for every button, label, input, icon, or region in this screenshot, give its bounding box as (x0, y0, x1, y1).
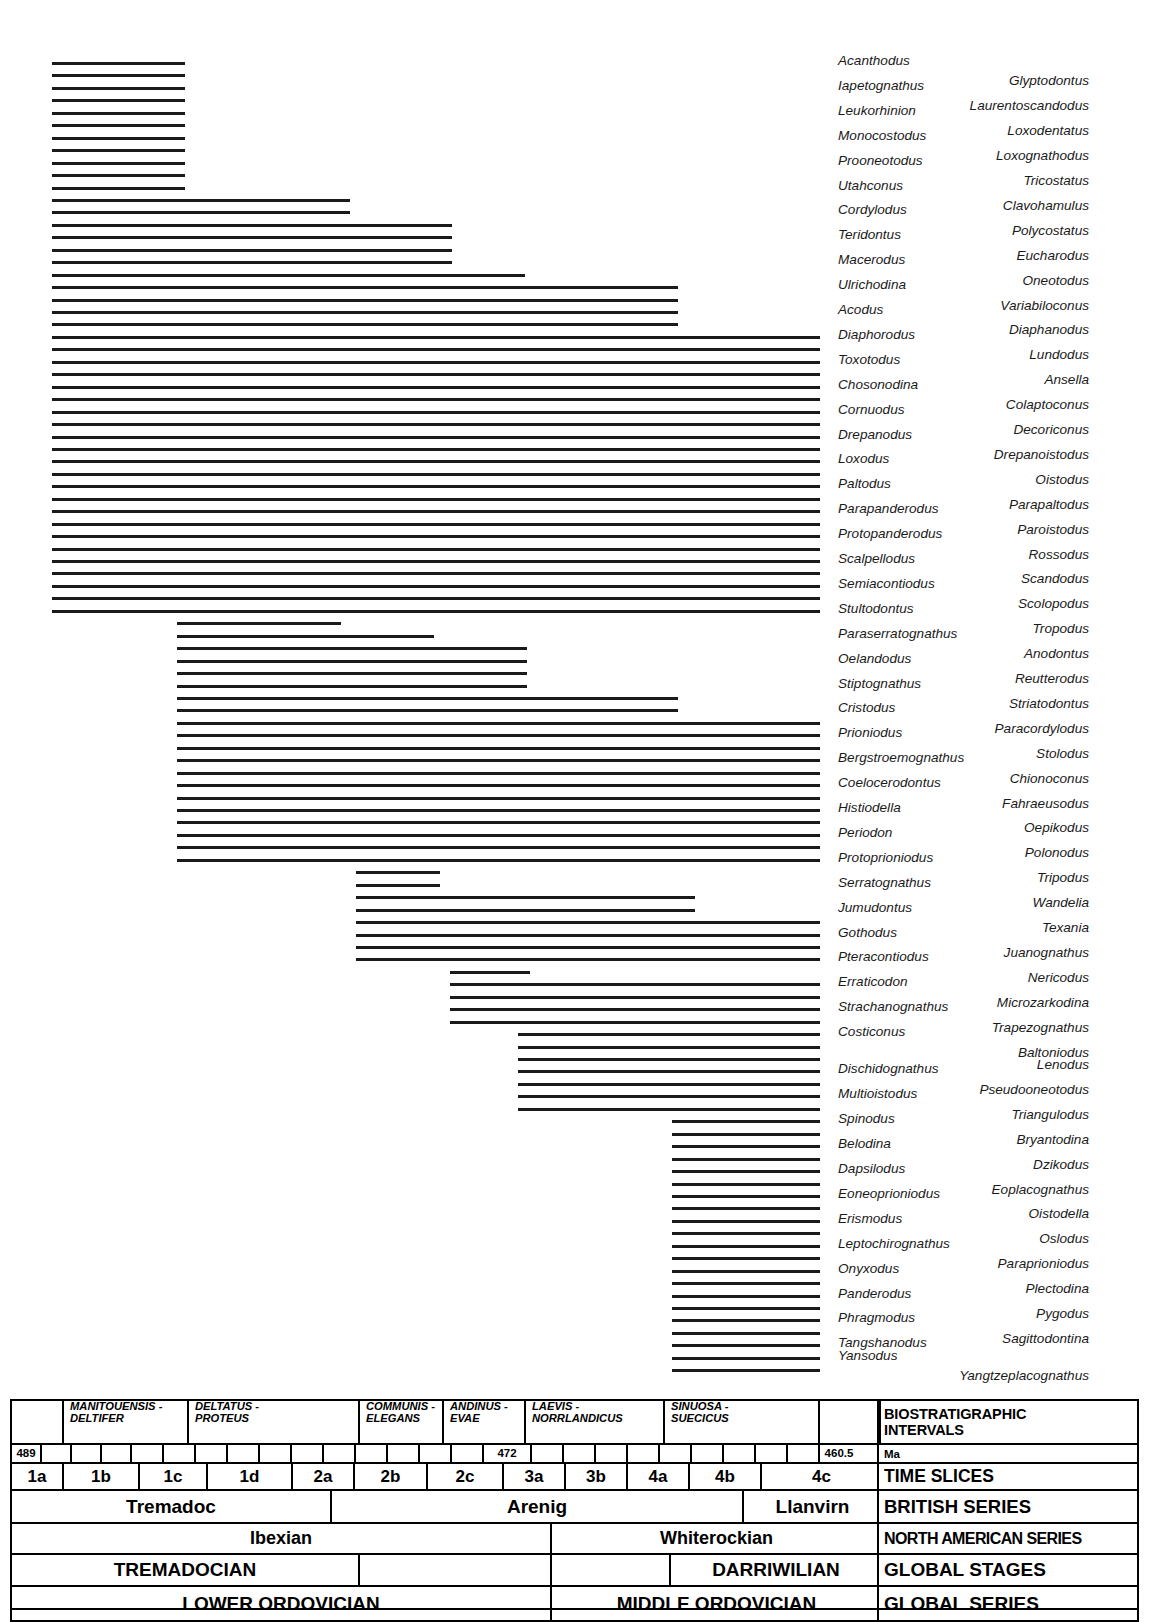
taxon-label: Pteracontiodus (838, 950, 929, 964)
range-bar (52, 124, 185, 127)
range-bar (177, 709, 678, 712)
range-bar (672, 1307, 820, 1310)
chrono-cells: TREMADOCIANDARRIWILIAN (12, 1555, 877, 1585)
range-bar (672, 1145, 820, 1148)
range-bar (518, 1070, 820, 1073)
taxon-label: Yangtzeplacognathus (959, 1369, 1089, 1383)
chrono-cell: LOWER ORDOVICIAN (12, 1587, 552, 1620)
range-bar (52, 249, 452, 252)
range-bar (177, 660, 527, 663)
chrono-row-label-global-series: GLOBAL SERIES (877, 1587, 1137, 1620)
range-bar (52, 199, 350, 202)
chrono-cell: LAEVIS -NORRLANDICUS (526, 1401, 665, 1443)
chrono-cell (552, 1555, 671, 1585)
taxon-label: Ulrichodina (838, 278, 906, 292)
chrono-cell-line: PROTEUS (195, 1413, 356, 1425)
range-bar (52, 498, 820, 501)
range-bar (177, 772, 820, 775)
range-bar (672, 1257, 820, 1260)
chrono-cell-line: DELTIFER (70, 1413, 185, 1425)
chrono-cell (420, 1445, 452, 1462)
chrono-cell: 2c (428, 1464, 504, 1489)
taxon-label: Stultodontus (838, 602, 914, 616)
range-bar (52, 597, 820, 600)
range-bar (52, 87, 185, 90)
chrono-row-label-british-series: BRITISH SERIES (877, 1491, 1137, 1522)
chrono-cell (228, 1445, 260, 1462)
chrono-cell (260, 1445, 292, 1462)
range-bar (52, 286, 678, 289)
taxon-label: Utahconus (838, 179, 903, 193)
chrono-cell: 1d (208, 1464, 293, 1489)
chrono-row-global-stages: TREMADOCIANDARRIWILIANGLOBAL STAGES (12, 1555, 1137, 1587)
chrono-cell-line: ELEGANS (366, 1413, 440, 1425)
chrono-cell: 4c (762, 1464, 881, 1489)
chrono-cell: 460.5 (820, 1445, 858, 1462)
chrono-row-label-north-american-series: NORTH AMERICAN SERIES (877, 1524, 1137, 1553)
chrono-cell (564, 1445, 596, 1462)
chrono-cell (788, 1445, 820, 1462)
chrono-cell-line: NORRLANDICUS (532, 1413, 661, 1425)
taxon-label: Chosonodina (838, 378, 918, 392)
range-bar (450, 996, 820, 999)
range-bar (450, 983, 820, 986)
taxon-label: Oelandodus (838, 652, 911, 666)
taxon-label: Monocostodus (838, 129, 926, 143)
chrono-cell: ANDINUS -EVAE (444, 1401, 526, 1443)
taxon-label: Cordylodus (838, 203, 907, 217)
range-bar (52, 535, 820, 538)
chrono-cell (42, 1445, 72, 1462)
taxon-label: Strachanognathus (838, 1000, 948, 1014)
range-bar (177, 685, 527, 688)
chrono-row-british-series: TremadocArenigLlanvirnBRITISH SERIES (12, 1491, 1137, 1524)
chronostratigraphic-table: MANITOUENSIS -DELTIFERDELTATUS -PROTEUSC… (10, 1399, 1139, 1622)
taxon-label: Scalpellodus (838, 552, 915, 566)
range-bar (177, 722, 820, 725)
taxon-label: Multioistodus (838, 1087, 917, 1101)
range-bar (356, 958, 820, 961)
range-bar (356, 871, 440, 874)
taxon-label: Costiconus (838, 1025, 905, 1039)
taxon-label: Eoneoprioniodus (838, 1187, 940, 1201)
chrono-cell-line: EVAE (450, 1413, 522, 1425)
chrono-cell (660, 1445, 692, 1462)
range-bar (177, 834, 820, 837)
chrono-row-biostratigraphic-intervals: MANITOUENSIS -DELTIFERDELTATUS -PROTEUSC… (12, 1401, 1137, 1445)
range-bar (52, 485, 820, 488)
chrono-cell-line: SUECICUS (671, 1413, 816, 1425)
taxon-label: Leptochirognathus (838, 1237, 950, 1251)
chrono-cells: TremadocArenigLlanvirn (12, 1491, 877, 1522)
chrono-cell: 1c (140, 1464, 208, 1489)
range-bar (672, 1369, 820, 1372)
chrono-cell: 4a (628, 1464, 690, 1489)
range-bar (52, 137, 185, 140)
range-bar (52, 274, 525, 277)
taxon-label: Iapetognathus (838, 79, 924, 93)
chrono-row-label-biostratigraphic-intervals: BIOSTRATIGRAPHICINTERVALS (877, 1401, 1137, 1443)
taxon-label: Parapanderodus (838, 502, 939, 516)
taxon-label: Macerodus (838, 253, 905, 267)
range-bar (672, 1232, 820, 1235)
range-bar (52, 236, 452, 239)
chrono-cell-line: MANITOUENSIS - (70, 1401, 185, 1413)
chrono-cell (292, 1445, 324, 1462)
chrono-cell: DARRIWILIAN (671, 1555, 881, 1585)
chrono-cell (324, 1445, 356, 1462)
range-bar (52, 361, 820, 364)
range-bar (52, 299, 678, 302)
chrono-cell (102, 1445, 132, 1462)
range-bar (52, 149, 185, 152)
range-bar (177, 759, 820, 762)
range-bar (356, 946, 820, 949)
chrono-cells: MANITOUENSIS -DELTIFERDELTATUS -PROTEUSC… (12, 1401, 877, 1443)
range-bar (518, 1046, 820, 1049)
chrono-cell (196, 1445, 228, 1462)
range-bar (450, 1008, 820, 1011)
taxon-label: Belodina (838, 1137, 891, 1151)
range-bar (450, 971, 530, 974)
range-row: Yangtzeplacognathus (0, 1363, 1149, 1380)
chrono-cell-line: SINUOSA - (671, 1401, 816, 1413)
taxon-label: Erraticodon (838, 975, 908, 989)
chrono-cell (756, 1445, 788, 1462)
range-bar (672, 1207, 820, 1210)
